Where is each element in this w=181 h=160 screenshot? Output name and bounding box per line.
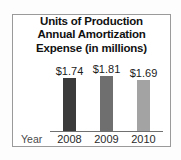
x-tick-2009: 2009 <box>89 133 124 145</box>
bar-group-2008: $1.74 <box>52 58 87 132</box>
chart-title-line-1: Units of Production <box>13 15 170 28</box>
x-tick-2008: 2008 <box>52 133 87 145</box>
bar-2009 <box>100 76 113 132</box>
bar-2008 <box>63 78 76 132</box>
x-axis-title: Year <box>21 133 51 145</box>
x-axis-baseline <box>50 131 163 132</box>
x-axis-tick-labels: 2008 2009 2010 <box>50 133 165 149</box>
bar-group-2009: $1.81 <box>89 58 124 132</box>
bar-group-2010: $1.69 <box>126 58 161 132</box>
plot-area: $1.74 $1.81 $1.69 <box>50 58 165 132</box>
x-tick-2010: 2010 <box>126 133 161 145</box>
chart-title-line-3: Expense (in millions) <box>13 42 170 55</box>
chart-figure: Units of Production Annual Amortization … <box>0 0 181 160</box>
bar-value-label-2010: $1.69 <box>122 67 165 79</box>
bar-2010 <box>137 80 150 132</box>
chart-title-line-2: Annual Amortization <box>13 28 170 41</box>
chart-title: Units of Production Annual Amortization … <box>13 15 170 55</box>
